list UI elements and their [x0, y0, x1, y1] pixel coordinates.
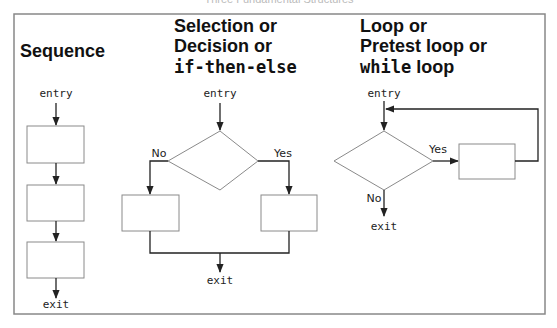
selection-title-line3: if-then-else: [174, 57, 297, 77]
loop-no-label: No: [367, 192, 382, 205]
sequence-box-2: [27, 185, 84, 221]
selection-title-line2: Decision or: [174, 36, 272, 56]
loop-title-loop: loop: [411, 57, 454, 77]
sequence-exit-label: exit: [43, 298, 70, 311]
loop-entry-label: entry: [367, 87, 400, 100]
selection-no-label: No: [152, 147, 167, 160]
selection-then-box: [261, 195, 317, 231]
loop-title-line3: while loop: [360, 57, 454, 77]
sequence-title: Sequence: [20, 41, 105, 61]
sequence-entry-label: entry: [39, 87, 72, 100]
control-structures-diagram: Three Fundamental Structures Sequence en…: [0, 0, 557, 328]
selection-title-line1: Selection or: [174, 16, 277, 36]
loop-title-line2: Pretest loop or: [360, 36, 487, 56]
loop-title-while: while: [360, 57, 411, 77]
loop-title-line1: Loop or: [360, 16, 427, 36]
selection-exit-label: exit: [207, 274, 234, 287]
sequence-box-1: [27, 126, 84, 163]
loop-yes-label: Yes: [428, 143, 447, 156]
sequence-box-3: [27, 242, 84, 278]
selection-else-box: [122, 195, 179, 231]
loop-body-box: [459, 144, 515, 179]
selection-yes-label: Yes: [273, 147, 292, 160]
loop-exit-label: exit: [371, 220, 398, 233]
selection-entry-label: entry: [203, 87, 236, 100]
figure-caption: Three Fundamental Structures: [204, 0, 354, 5]
